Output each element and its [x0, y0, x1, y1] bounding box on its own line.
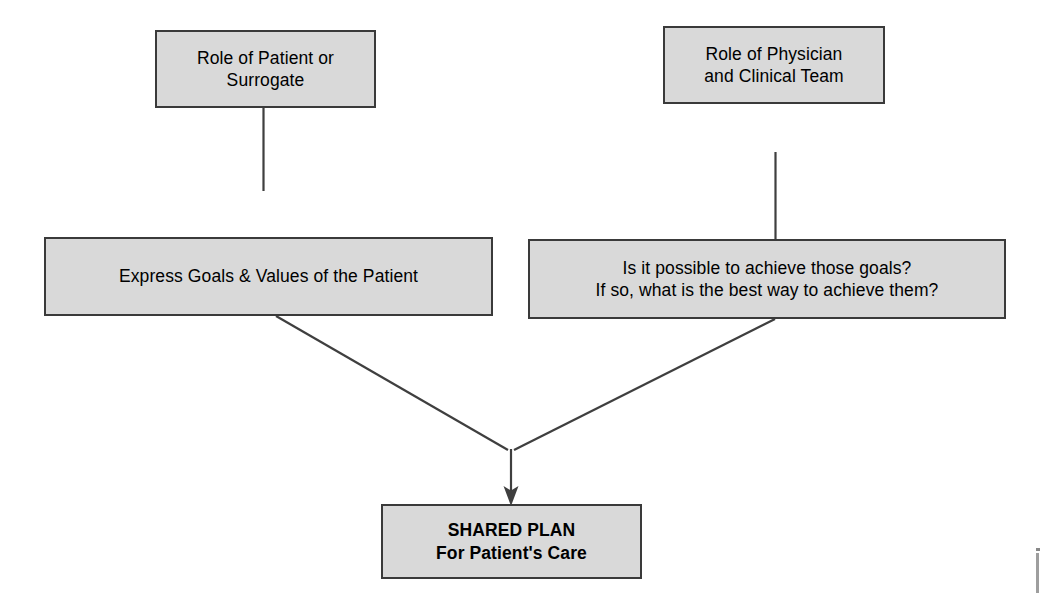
- node-shared-plan[interactable]: SHARED PLAN For Patient's Care: [381, 504, 642, 579]
- node-patient-role[interactable]: Role of Patient or Surrogate: [155, 30, 376, 108]
- connector-express-goals-to-merge: [276, 316, 508, 450]
- node-physician-role-label: Role of Physician and Clinical Team: [696, 43, 852, 88]
- flowchart-diagram: Role of Patient or Surrogate Role of Phy…: [0, 0, 1040, 599]
- node-patient-role-label: Role of Patient or Surrogate: [189, 47, 342, 92]
- node-express-goals-label: Express Goals & Values of the Patient: [111, 265, 426, 287]
- arrowhead-down-icon: [504, 486, 519, 506]
- node-shared-plan-label: SHARED PLAN For Patient's Care: [428, 519, 595, 564]
- scan-artifact-dot: [1036, 548, 1040, 551]
- connector-achieve-goals-to-merge: [514, 319, 775, 450]
- node-express-goals[interactable]: Express Goals & Values of the Patient: [44, 237, 493, 316]
- node-achieve-goals-label: Is it possible to achieve those goals? I…: [588, 257, 947, 302]
- scan-artifact-mark: [1036, 553, 1039, 593]
- node-achieve-goals[interactable]: Is it possible to achieve those goals? I…: [528, 239, 1006, 319]
- node-physician-role[interactable]: Role of Physician and Clinical Team: [663, 26, 885, 104]
